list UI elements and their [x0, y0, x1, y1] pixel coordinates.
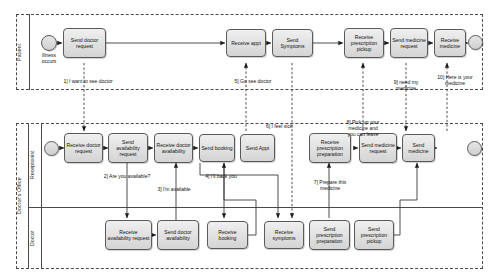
lane-divider: [29, 207, 483, 208]
end-event-patient: [468, 35, 483, 50]
task-send-booking[interactable]: Send booking: [199, 134, 235, 162]
task-send-doctor-request[interactable]: Send doctor request: [63, 28, 106, 58]
message-label-1: 1] I want to see doctor: [36, 79, 140, 85]
message-label-10: 10] Here is your medicine: [421, 75, 489, 87]
lane-receptionist-label: Receptionist: [29, 123, 42, 207]
bpmn-diagram: Patient Doctor's Office Receptionist Doc…: [0, 0, 495, 279]
task-send-doctor-availability[interactable]: Send doctor availability: [157, 220, 199, 250]
message-label-8: 8] Pick up your medicine and you can lea…: [327, 120, 399, 138]
task-receive-doctor-availability[interactable]: Receive doctor availability: [154, 133, 193, 163]
start-event-receptionist: [44, 141, 59, 156]
message-label-5: 5] Go see doctor: [214, 79, 292, 85]
task-send-availability-request[interactable]: Send availability request: [108, 133, 148, 163]
task-receive-appt[interactable]: Receive appt: [226, 29, 266, 57]
task-receive-availability-request[interactable]: Receive availability request: [105, 220, 152, 250]
task-send-prescription-preparation[interactable]: Send prescription preparation: [309, 220, 350, 250]
task-receive-booking[interactable]: Receive booking: [207, 221, 248, 249]
message-label-6: 6] I feel sick: [266, 124, 322, 130]
end-event-receptionist: [467, 141, 482, 156]
message-label-7: 7] Prepare this medicine: [296, 180, 364, 192]
message-label-3: 3] I'm available: [130, 187, 218, 193]
task-send-prescription-pickup[interactable]: Send prescription pickup: [354, 220, 394, 250]
pool-doctors-office-label: Doctor's Office: [16, 123, 29, 269]
message-label-4: 4] I'll back you: [180, 174, 262, 180]
task-send-medicine[interactable]: Send medicine: [402, 134, 435, 162]
task-send-symptoms[interactable]: Send Symptoms: [272, 29, 313, 57]
task-receive-prescription-pickup[interactable]: Receive prescription pickup: [344, 28, 384, 58]
task-send-appt[interactable]: Send Appt: [240, 134, 275, 162]
task-send-medicine-request[interactable]: Send medicine request: [390, 28, 428, 58]
message-label-2: 2] Are you available?: [82, 174, 172, 180]
start-event-illness: [41, 35, 57, 51]
task-receive-doctor-request[interactable]: Receive doctor request: [64, 133, 103, 163]
pool-patient-label: Patient: [16, 14, 30, 90]
task-receive-symptoms[interactable]: Receive symptoms: [264, 221, 304, 249]
task-receive-medicine[interactable]: Receive medicine: [434, 29, 466, 57]
lane-doctor-label: Doctor: [29, 207, 42, 269]
